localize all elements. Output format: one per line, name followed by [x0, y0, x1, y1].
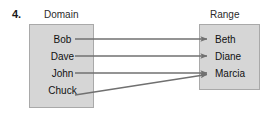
domain-caption: Domain [44, 9, 78, 20]
range-element-marcia: Marcia [215, 68, 245, 80]
range-element-diane: Diane [215, 51, 241, 63]
domain-element-bob: Bob [30, 34, 95, 46]
domain-element-john: John [30, 68, 95, 80]
range-caption: Range [210, 9, 239, 20]
range-set-box: Beth Diane Marcia [199, 24, 260, 90]
domain-element-dave: Dave [30, 51, 95, 63]
problem-number: 4. [12, 8, 21, 20]
range-element-beth: Beth [215, 34, 236, 46]
domain-set-box: Bob Dave John Chuck [29, 24, 94, 108]
domain-element-chuck: Chuck [30, 85, 95, 97]
mapping-diagram-figure: 4. Domain Range Bob Dave John Chuck Beth… [0, 0, 276, 118]
